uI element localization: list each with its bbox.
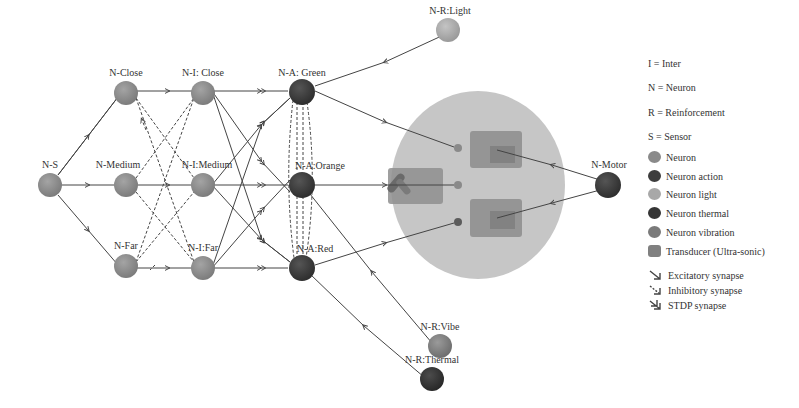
svg-text:N-Motor: N-Motor	[591, 159, 627, 170]
legend-excitatory: Excitatory synapse	[648, 268, 744, 282]
node-n-a-red: N-A:Red	[289, 243, 333, 281]
svg-text:N-R:Vibe: N-R:Vibe	[421, 321, 460, 332]
legend-neuron: Neuron	[648, 150, 696, 164]
legend-neuron-light: Neuron light	[648, 187, 717, 201]
legend-stdp: STDP synapse	[648, 298, 726, 312]
node-n-s: N-S	[38, 159, 62, 197]
svg-text:N-I: Close: N-I: Close	[182, 67, 225, 78]
stdp-synapse-icon	[648, 299, 662, 311]
svg-text:N-Far: N-Far	[114, 240, 139, 251]
svg-text:N-R:Thermal: N-R:Thermal	[405, 354, 459, 365]
motor-point-top	[454, 144, 462, 152]
svg-text:N-S: N-S	[42, 159, 58, 170]
excitatory-synapse-icon	[648, 269, 662, 281]
node-n-medium: N-Medium	[96, 159, 141, 197]
legend-abbr-sensor: S = Sensor	[648, 131, 691, 142]
svg-text:N-A: Green: N-A: Green	[278, 67, 325, 78]
svg-text:N-A:Red: N-A:Red	[297, 243, 334, 254]
motor-point-middle	[454, 181, 462, 189]
legend-abbr-inter: I = Inter	[648, 58, 681, 69]
neuron-swatch-icon	[648, 151, 661, 163]
svg-text:N-Medium: N-Medium	[96, 159, 141, 170]
legend-abbr-neuron: N = Neuron	[648, 82, 696, 93]
legend-neuron-vibration: Neuron vibration	[648, 225, 735, 239]
node-n-r-light: N-R:Light	[429, 5, 471, 42]
legend-transducer: Transducer (Ultra-sonic)	[648, 244, 765, 258]
neuron-vibration-swatch-icon	[648, 226, 661, 238]
node-n-a-green: N-A: Green	[278, 67, 325, 105]
svg-text:N-I:Medium: N-I:Medium	[182, 159, 233, 170]
legend-neuron-action: Neuron action	[648, 169, 723, 183]
node-n-far: N-Far	[114, 240, 139, 278]
svg-text:N-I:Far: N-I:Far	[188, 242, 219, 253]
inhibitory-synapse-icon	[648, 284, 662, 296]
legend-neuron-thermal: Neuron thermal	[648, 206, 729, 220]
motor-point-bottom	[454, 218, 462, 226]
node-n-r-vibe: N-R:Vibe	[421, 321, 460, 358]
node-n-i-medium: N-I:Medium	[182, 159, 233, 197]
legend-inhibitory: Inhibitory synapse	[648, 283, 742, 297]
neuron-action-swatch-icon	[648, 170, 661, 182]
svg-text:N-Close: N-Close	[109, 67, 143, 78]
neuron-light-swatch-icon	[648, 188, 661, 200]
node-n-r-thermal: N-R:Thermal	[405, 354, 459, 391]
node-n-a-orange: N-A:Orange	[289, 160, 346, 198]
svg-text:N-A:Orange: N-A:Orange	[295, 160, 346, 171]
node-n-close: N-Close	[109, 67, 143, 105]
transducer-swatch-icon	[648, 245, 661, 257]
neuron-thermal-swatch-icon	[648, 207, 661, 219]
svg-text:N-R:Light: N-R:Light	[429, 5, 471, 16]
legend-abbr-reinforcement: R = Reinforcement	[648, 107, 725, 118]
